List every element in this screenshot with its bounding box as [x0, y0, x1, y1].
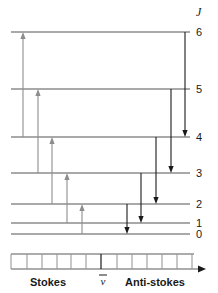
spectrum-axis-arrowhead — [198, 266, 206, 273]
stokes-4-to-6 — [20, 32, 25, 137]
antistokes-6-to-4 — [182, 32, 187, 137]
antistokes-4-to-2 — [153, 137, 158, 204]
axis-title-group: J — [196, 5, 202, 19]
raman-energy-level-diagram: J 6543210 Stokes ν Anti-stokes — [0, 0, 218, 293]
transition-arrowhead — [49, 137, 54, 144]
energy-level-label: 0 — [196, 228, 202, 240]
spectrum-labels-group: Stokes ν Anti-stokes — [30, 275, 185, 288]
transition-arrowhead — [64, 173, 69, 180]
stokes-region-label: Stokes — [30, 276, 66, 288]
transition-arrowhead — [138, 216, 143, 223]
j-axis-label: J — [196, 5, 202, 19]
diagram-canvas: J 6543210 Stokes ν Anti-stokes — [0, 0, 218, 293]
stokes-0-to-2 — [79, 204, 84, 234]
transition-arrowhead — [124, 227, 129, 234]
energy-level-2: 2 — [11, 198, 202, 210]
energy-level-4: 4 — [11, 131, 202, 143]
transition-arrowhead — [20, 32, 25, 39]
antistokes-2-to-0 — [124, 204, 129, 234]
energy-level-label: 3 — [196, 167, 202, 179]
stokes-1-to-3 — [64, 173, 69, 223]
transition-arrowhead — [79, 204, 84, 211]
energy-level-label: 5 — [196, 83, 202, 95]
stokes-2-to-4 — [49, 137, 54, 204]
energy-level-label: 6 — [196, 26, 202, 38]
antistokes-5-to-3 — [168, 89, 173, 173]
energy-level-5: 5 — [11, 83, 202, 95]
antistokes-3-to-1 — [138, 173, 143, 223]
energy-levels-group: 6543210 — [11, 26, 202, 240]
energy-level-1: 1 — [11, 217, 202, 229]
antistokes-region-label: Anti-stokes — [125, 276, 185, 288]
energy-level-0: 0 — [11, 228, 202, 240]
spectrum-bar-group — [11, 254, 206, 272]
transition-arrowhead — [182, 130, 187, 137]
energy-level-6: 6 — [11, 26, 202, 38]
transition-arrowhead — [35, 89, 40, 96]
energy-level-label: 4 — [196, 131, 202, 143]
stokes-3-to-5 — [35, 89, 40, 173]
energy-level-3: 3 — [11, 167, 202, 179]
wavenumber-label: ν — [101, 275, 106, 287]
transition-arrowhead — [153, 197, 158, 204]
energy-level-label: 2 — [196, 198, 202, 210]
transition-arrowhead — [168, 166, 173, 173]
